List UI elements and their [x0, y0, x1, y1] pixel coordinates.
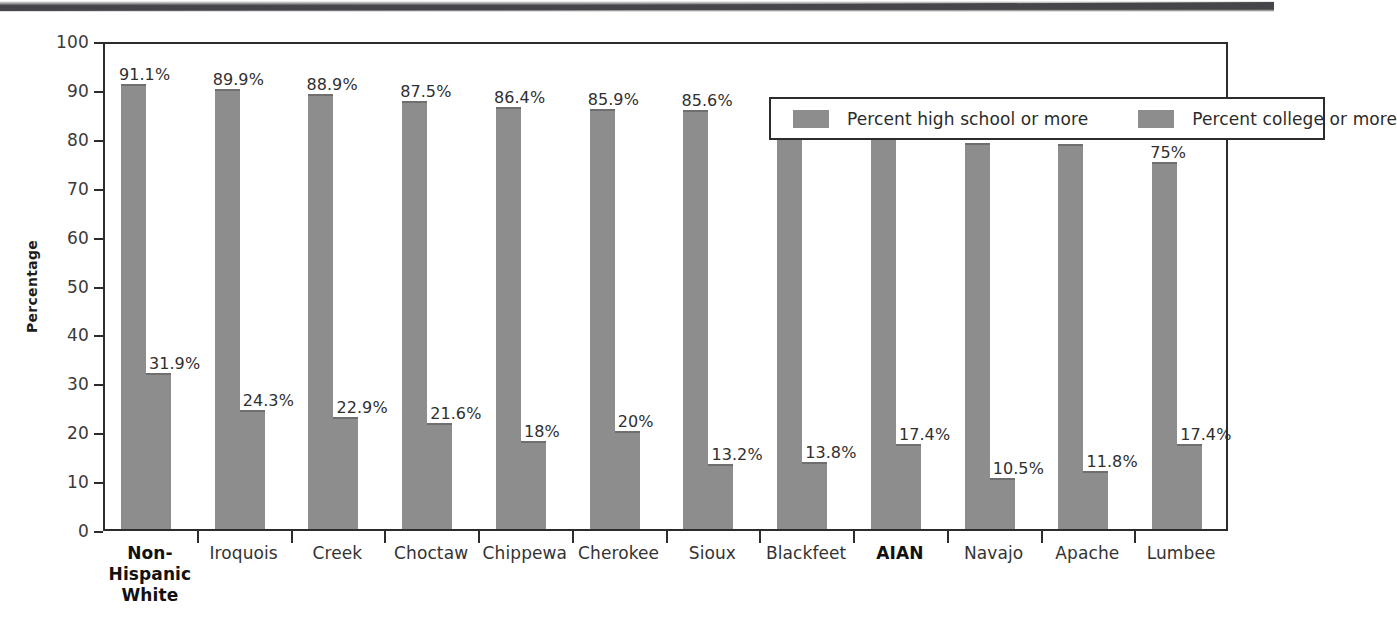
y-axis-tick-mark [94, 140, 103, 142]
bar-college: 20% [615, 431, 640, 529]
y-axis-tick-label: 60 [67, 228, 89, 248]
y-axis-tick-label: 90 [67, 81, 89, 101]
bar-high-school: 85.6% [683, 110, 708, 529]
bar-value-label: 10.5% [993, 459, 1044, 478]
x-axis-labels: Non-HispanicWhiteIroquoisCreekChoctawChi… [103, 543, 1228, 603]
bar-college: 31.9% [146, 373, 171, 529]
bar-group: 91.1%31.9% [121, 44, 171, 529]
bar-college: 22.9% [333, 417, 358, 529]
bar-value-label: 87.5% [400, 82, 451, 101]
x-axis-tick-mark [572, 531, 574, 543]
bar-group: 88.9%22.9% [308, 44, 358, 529]
x-axis-tick-mark [759, 531, 761, 543]
legend-item-high-school: Percent high school or more [793, 99, 1088, 138]
bar-high-school: 91.1% [121, 84, 146, 529]
bar-college: 13.2% [708, 464, 733, 529]
x-axis-tick-mark [947, 531, 949, 543]
y-axis-tick-label: 80 [67, 130, 89, 150]
bar-high-school: 87.5% [402, 101, 427, 529]
bar-group: 85.9%20% [590, 44, 640, 529]
bar-high-school: 88.9% [308, 94, 333, 529]
bar-value-label: 21.6% [430, 404, 481, 423]
y-axis-tick-mark [94, 531, 103, 533]
y-axis-tick-mark [94, 91, 103, 93]
bar-high-school: 89.9% [215, 89, 240, 529]
y-axis-tick-label: 100 [56, 32, 89, 52]
legend-swatch-college [1138, 110, 1174, 128]
bar-college: 24.3% [240, 410, 265, 529]
x-axis-tick-mark [853, 531, 855, 543]
scan-edge-band [0, 0, 1274, 12]
bar-high-school: 86.4% [496, 107, 521, 529]
bar-group: 85.6%13.2% [683, 44, 733, 529]
bar-value-label: 85.6% [681, 91, 732, 110]
x-axis-tick-mark [291, 531, 293, 543]
bar-college: 13.8% [802, 462, 827, 529]
bar-value-label: 13.8% [805, 443, 856, 462]
x-axis-category-line: Lumbee [1122, 543, 1240, 564]
x-axis-tick-mark [384, 531, 386, 543]
y-axis-tick-label: 70 [67, 179, 89, 199]
chart-plot-frame: 91.1%31.9%89.9%24.3%88.9%22.9%87.5%21.6%… [103, 42, 1228, 531]
y-axis-tick-mark [94, 238, 103, 240]
bar-value-label: 86.4% [494, 88, 545, 107]
y-axis-tick-label: 20 [67, 423, 89, 443]
x-axis-tick-mark [478, 531, 480, 543]
bar-value-label: 31.9% [149, 354, 200, 373]
bar-group: 86.4%18% [496, 44, 546, 529]
y-axis-tick-label: 40 [67, 325, 89, 345]
legend-label-high-school: Percent high school or more [847, 109, 1088, 129]
y-axis-tick-mark [94, 189, 103, 191]
bar-value-label: 88.9% [306, 75, 357, 94]
bar-value-label: 91.1% [119, 65, 170, 84]
bar-college: 17.4% [1177, 444, 1202, 529]
y-axis-tick-mark [94, 287, 103, 289]
y-axis-tick-mark [94, 384, 103, 386]
x-axis-tick-mark [197, 531, 199, 543]
x-axis-category-line: White [91, 585, 209, 606]
y-axis-tick-mark [94, 335, 103, 337]
bar-value-label: 85.9% [588, 90, 639, 109]
bar-high-school: 75% [1152, 162, 1177, 529]
chart-legend: Percent high school or more Percent coll… [769, 97, 1325, 140]
bar-high-school: 79% [965, 143, 990, 529]
y-axis-tick-label: 30 [67, 374, 89, 394]
bar-value-label: 75% [1150, 143, 1186, 162]
bar-high-school: 82% [871, 128, 896, 529]
bar-college: 21.6% [427, 423, 452, 529]
bar-college: 10.5% [990, 478, 1015, 529]
bar-high-school: 85.9% [590, 109, 615, 529]
bar-college: 17.4% [896, 444, 921, 529]
bar-high-school: 84.5% [777, 116, 802, 529]
x-axis-tick-mark [1134, 531, 1136, 543]
bar-value-label: 13.2% [711, 445, 762, 464]
y-axis: 1009080706050403020100 [0, 42, 103, 531]
bar-value-label: 17.4% [899, 425, 950, 444]
bar-value-label: 22.9% [336, 398, 387, 417]
bar-value-label: 24.3% [243, 391, 294, 410]
legend-swatch-high-school [793, 110, 829, 128]
legend-item-college: Percent college or more [1138, 99, 1397, 138]
x-axis-category-label: Lumbee [1122, 543, 1240, 564]
bar-value-label: 18% [524, 422, 560, 441]
bar-high-school: 78.8% [1058, 144, 1083, 529]
bar-college: 18% [521, 441, 546, 529]
bar-value-label: 89.9% [213, 70, 264, 89]
bar-value-label: 20% [618, 412, 654, 431]
y-axis-tick-label: 0 [78, 521, 89, 541]
legend-label-college: Percent college or more [1192, 109, 1397, 129]
y-axis-tick-mark [94, 42, 103, 44]
y-axis-tick-mark [94, 482, 103, 484]
y-axis-tick-label: 50 [67, 277, 89, 297]
bar-college: 11.8% [1083, 471, 1108, 529]
bar-value-label: 17.4% [1180, 425, 1231, 444]
bar-group: 87.5%21.6% [402, 44, 452, 529]
y-axis-tick-label: 10 [67, 472, 89, 492]
x-axis-tick-mark [666, 531, 668, 543]
scan-edge-band-fill [0, 2, 1274, 11]
bar-value-label: 11.8% [1086, 452, 1137, 471]
x-axis-tick-mark [1041, 531, 1043, 543]
bar-group: 89.9%24.3% [215, 44, 265, 529]
y-axis-tick-mark [94, 433, 103, 435]
